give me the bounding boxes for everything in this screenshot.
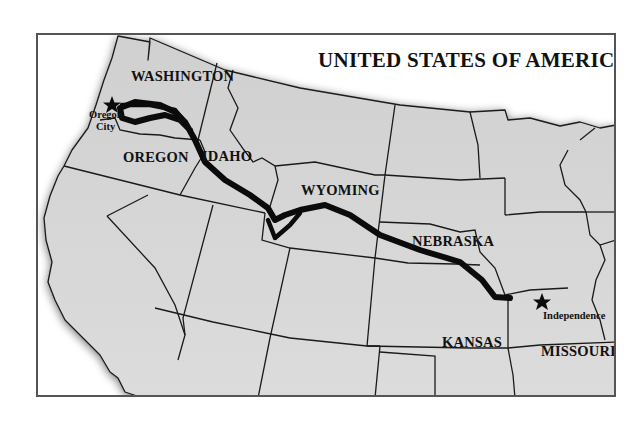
label-nebraska: NEBRASKA — [412, 233, 494, 249]
label-oregon-city-line2: City — [96, 121, 116, 132]
map-frame: UNITED STATES OF AMERICA WASHINGTON OREG… — [36, 33, 616, 397]
label-missouri: MISSOURI — [541, 343, 616, 359]
us-map: UNITED STATES OF AMERICA WASHINGTON OREG… — [36, 33, 616, 397]
land-mass — [44, 36, 616, 397]
label-kansas: KANSAS — [442, 334, 502, 350]
label-independence: Independence — [543, 310, 606, 321]
label-wyoming: WYOMING — [301, 182, 380, 198]
label-oregon-city-line1: Oregon — [89, 109, 123, 120]
label-washington: WASHINGTON — [131, 68, 235, 84]
label-idaho: IDAHO — [202, 148, 252, 164]
map-title: UNITED STATES OF AMERICA — [318, 48, 616, 72]
label-oregon: OREGON — [123, 149, 189, 165]
land-outline — [44, 36, 616, 397]
